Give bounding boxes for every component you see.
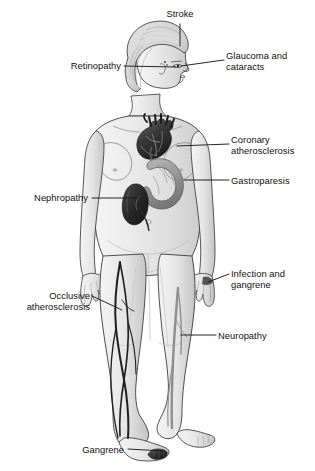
neck — [129, 94, 166, 116]
label-gastroparesis: Gastroparesis — [231, 175, 315, 186]
leader-glaucoma-cataracts — [181, 60, 224, 66]
diagram-canvas: Stroke Glaucoma and cataracts Retinopath… — [0, 0, 315, 471]
label-retinopathy: Retinopathy — [53, 60, 121, 71]
label-stroke: Stroke — [150, 8, 210, 19]
pupil — [177, 65, 180, 68]
label-coronary-atherosclerosis: Coronary atherosclerosis — [231, 134, 315, 157]
label-nephropathy: Nephropathy — [12, 192, 88, 203]
foot-right — [177, 430, 215, 448]
label-occlusive-atherosclerosis: Occlusive atherosclerosis — [6, 290, 90, 313]
nipple-left — [113, 168, 118, 172]
label-gangrene: Gangrene — [62, 444, 124, 455]
label-infection-gangrene: Infection and gangrene — [231, 268, 315, 291]
label-neuropathy: Neuropathy — [218, 330, 300, 341]
label-glaucoma-cataracts: Glaucoma and cataracts — [226, 50, 314, 73]
leg-right — [157, 254, 195, 439]
head-group — [125, 21, 189, 116]
